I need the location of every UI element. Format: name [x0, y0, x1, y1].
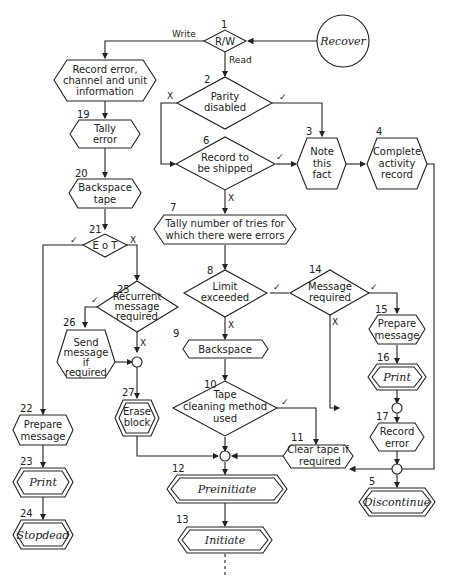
svg-text:17: 17	[376, 411, 389, 422]
svg-text:Tally: Tally	[93, 123, 116, 134]
edge-label-yes: ✓	[279, 92, 287, 102]
svg-text:cleaning method: cleaning method	[183, 401, 267, 412]
svg-text:Limit: Limit	[213, 281, 238, 292]
svg-text:Tape: Tape	[212, 389, 236, 400]
edge-label-yes: ✓	[91, 295, 99, 305]
edge-label-no: X	[140, 338, 146, 348]
svg-text:6: 6	[203, 135, 209, 146]
process-backspace: Backspace 9	[173, 328, 268, 358]
decision-tape-cleaning: Tape cleaning method used 10	[173, 379, 277, 436]
svg-text:message: message	[375, 330, 420, 341]
svg-text:R/W: R/W	[215, 36, 235, 47]
svg-text:Clear tape if: Clear tape if	[287, 444, 349, 455]
edge-label-write: Write	[172, 29, 196, 39]
process-clear-tape: Clear tape if required 11	[283, 432, 353, 468]
svg-text:9: 9	[173, 328, 179, 339]
svg-text:15: 15	[375, 304, 388, 315]
decision-recurrent-message: Recurrent message required 25	[97, 281, 178, 332]
svg-text:Parity: Parity	[211, 91, 240, 102]
svg-text:Print: Print	[28, 476, 57, 489]
edge-label-yes: ✓	[70, 235, 78, 245]
svg-text:record: record	[381, 169, 413, 180]
svg-text:Preinitiate: Preinitiate	[197, 483, 257, 496]
svg-text:8: 8	[207, 265, 213, 276]
process-record-error-channel: Record error, channel and unit informati…	[54, 60, 156, 101]
svg-text:22: 22	[20, 403, 33, 414]
svg-text:4: 4	[376, 126, 382, 137]
svg-text:1: 1	[221, 19, 227, 30]
svg-text:7: 7	[170, 202, 176, 213]
svg-text:which there were errors: which there were errors	[166, 230, 285, 241]
edge-label-no: X	[228, 320, 234, 330]
svg-text:Message: Message	[308, 281, 352, 292]
svg-text:Print: Print	[382, 371, 411, 384]
svg-text:Complete: Complete	[373, 146, 421, 157]
junction-node	[392, 403, 402, 413]
svg-text:12: 12	[172, 463, 185, 474]
terminal-preinitiate: Preinitiate 12	[167, 463, 287, 503]
svg-text:23: 23	[20, 456, 33, 467]
svg-text:21: 21	[89, 224, 102, 235]
svg-text:channel and unit: channel and unit	[63, 75, 147, 86]
edge-label-no: X	[167, 91, 173, 101]
svg-text:tape: tape	[94, 194, 117, 205]
start-recover: Recover	[317, 15, 369, 67]
svg-text:Backspace: Backspace	[198, 344, 252, 355]
svg-text:Erase: Erase	[123, 406, 151, 417]
svg-text:Discontinue: Discontinue	[363, 496, 431, 509]
svg-text:fact: fact	[312, 169, 331, 180]
process-complete-activity: Complete activity record 4	[367, 126, 427, 189]
svg-text:11: 11	[291, 432, 304, 443]
svg-text:27: 27	[122, 387, 135, 398]
svg-text:Record: Record	[380, 426, 415, 437]
svg-text:Record to: Record to	[201, 152, 249, 163]
process-send-message: Send message if required 26	[57, 317, 115, 378]
svg-text:error: error	[385, 438, 410, 449]
svg-text:disabled: disabled	[204, 102, 246, 113]
svg-text:13: 13	[176, 514, 189, 525]
decision-limit-exceeded: Limit exceeded 8	[184, 265, 267, 317]
svg-text:Record error,: Record error,	[72, 64, 137, 75]
svg-text:5: 5	[369, 476, 375, 487]
decision-message-required: Message required 14	[290, 264, 369, 315]
svg-text:Initiate: Initiate	[204, 534, 246, 547]
edge-label-no: X	[130, 235, 136, 245]
svg-text:10: 10	[204, 379, 217, 390]
svg-text:25: 25	[117, 284, 130, 295]
svg-text:Prepare: Prepare	[378, 318, 416, 329]
svg-text:Tally number of tries for: Tally number of tries for	[164, 218, 285, 229]
edge-label-no: X	[332, 317, 338, 327]
svg-text:Prepare: Prepare	[24, 419, 62, 430]
decision-rw: R/W 1	[204, 19, 246, 52]
svg-text:14: 14	[309, 264, 322, 275]
svg-text:3: 3	[306, 126, 312, 137]
svg-text:error: error	[93, 134, 118, 145]
edge-label-yes: ✓	[281, 397, 289, 407]
edge-label-no: X	[228, 193, 234, 203]
svg-text:Backspace: Backspace	[78, 182, 132, 193]
svg-text:required: required	[299, 456, 341, 467]
svg-text:be shipped: be shipped	[197, 163, 252, 174]
terminal-initiate: Initiate 13	[176, 514, 272, 553]
svg-text:26: 26	[63, 317, 76, 328]
svg-text:information: information	[76, 86, 134, 97]
svg-text:required: required	[116, 311, 158, 322]
svg-text:required: required	[65, 367, 107, 378]
svg-text:16: 16	[377, 352, 390, 363]
edge-label-yes: ✓	[273, 282, 281, 292]
edge-label-yes: ✓	[370, 282, 378, 292]
svg-text:2: 2	[204, 74, 210, 85]
svg-text:message: message	[21, 431, 66, 442]
svg-text:exceeded: exceeded	[201, 292, 249, 303]
svg-text:Note: Note	[310, 146, 334, 157]
svg-text:block: block	[124, 417, 151, 428]
svg-text:Recover: Recover	[319, 35, 366, 48]
svg-text:19: 19	[77, 109, 90, 120]
svg-text:this: this	[313, 158, 331, 169]
svg-text:24: 24	[20, 508, 33, 519]
svg-text:Stopdead: Stopdead	[17, 529, 70, 542]
junction-node	[132, 357, 142, 367]
svg-text:activity: activity	[379, 158, 416, 169]
decision-parity-disabled: Parity disabled 2	[177, 74, 272, 129]
svg-text:required: required	[309, 292, 351, 303]
